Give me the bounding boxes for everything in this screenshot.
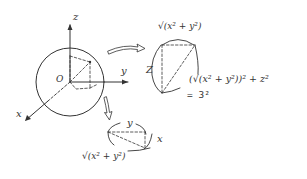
- side-arc-right: [195, 45, 198, 74]
- z-axis-label: z: [72, 11, 79, 22]
- side-arc-left: [152, 45, 162, 93]
- bottom-label-y: y: [126, 117, 133, 128]
- radius-line: [70, 62, 90, 82]
- projection-to-z: [70, 56, 90, 62]
- point-marker: [89, 61, 91, 63]
- bottom-hypotenuse: [108, 132, 145, 148]
- side-label-z: Z: [145, 64, 154, 75]
- bottom-view-group: y x √(x² + y²): [82, 117, 163, 161]
- origin-label: O: [56, 74, 64, 84]
- x-axis-inner: [48, 82, 70, 101]
- bottom-arc-left: [108, 123, 120, 145]
- xy-plane-projection: [70, 82, 90, 89]
- bottom-label-sqrt: √(x² + y²): [82, 151, 126, 161]
- z-axis-arrowhead-icon: [68, 24, 73, 30]
- side-hypotenuse: [162, 45, 195, 93]
- bottom-arc-right: [136, 124, 146, 134]
- formula-line-1: (√(x² + y²))² + z²: [189, 73, 269, 84]
- curved-arrow-down-icon: [104, 97, 112, 120]
- bottom-label-x: x: [157, 133, 163, 144]
- side-label-top: √(x² + y²): [158, 21, 202, 31]
- xy-projection-tail: [90, 84, 98, 88]
- diagram-canvas: z y x O √(x² + y²) Z (√(x² + y²: [0, 0, 307, 179]
- x-axis: [26, 101, 48, 120]
- bottom-arc-bottom: [128, 148, 150, 151]
- formula-line-2: = 3²: [187, 89, 210, 100]
- sphere-group: z y x O: [16, 11, 128, 121]
- x-axis-label: x: [16, 108, 22, 119]
- side-arc-top: [162, 40, 194, 46]
- arrow-to-side-view: [108, 44, 145, 54]
- curved-arrow-right-icon: [108, 44, 145, 54]
- side-view-group: √(x² + y²) Z (√(x² + y²))² + z² = 3²: [145, 21, 269, 100]
- arrow-to-bottom-view: [104, 97, 112, 120]
- y-axis-label: y: [120, 65, 127, 76]
- y-axis-arrowhead-icon: [122, 80, 128, 85]
